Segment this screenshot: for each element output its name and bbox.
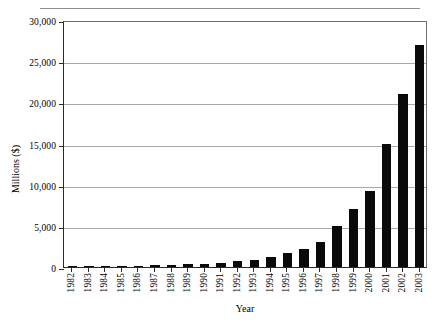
x-axis-tick [204,268,205,272]
bar [183,264,193,267]
x-axis-tick-label: 1982 [66,273,76,292]
bar [415,45,425,267]
x-axis-tick [253,268,254,272]
bar-series [64,22,426,267]
bar [332,226,342,267]
chart-figure: Millions ($) 05,00010,00015,00020,00025,… [0,0,447,322]
bar [266,257,276,267]
figure-top-rule [40,8,420,9]
x-axis-tick [319,268,320,272]
x-axis-tick [137,268,138,272]
bar [101,266,111,267]
x-axis-tick [353,268,354,272]
x-axis-tick-label: 1990 [199,273,209,292]
x-axis-tick-label: 2000 [364,273,374,292]
x-axis-tick [286,268,287,272]
x-axis-tick-label: 1987 [149,273,159,292]
bar [68,266,78,267]
x-axis-tick-label: 1991 [215,273,225,292]
y-axis-tick-label: 0 [51,264,56,274]
y-axis-tick-label: 30,000 [29,17,56,27]
bar [349,209,359,267]
x-axis-tick [369,268,370,272]
x-axis-tick [237,268,238,272]
bar [117,266,127,267]
x-axis-tick-label: 1993 [248,273,258,292]
bar [167,265,177,267]
x-axis-tick [419,268,420,272]
x-axis-tick [187,268,188,272]
x-axis-tick [154,268,155,272]
x-axis-tick [402,268,403,272]
bar [200,264,210,267]
y-axis-tick-label: 15,000 [29,141,56,151]
x-axis-tick-label: 2003 [414,273,424,292]
x-axis-tick-label: 1989 [182,273,192,292]
x-axis-tick-label: 1996 [298,273,308,292]
figure-caption-cropped [40,0,420,6]
bar [216,263,226,267]
x-axis-tick-label: 1988 [166,273,176,292]
bar [150,265,160,267]
x-axis-tick-label: 1985 [116,273,126,292]
bar [84,266,94,267]
y-axis-tick-label: 20,000 [29,99,56,109]
x-axis-tick [270,268,271,272]
y-axis-tick-label: 10,000 [29,182,56,192]
x-axis-tick-label: 1998 [331,273,341,292]
bar [283,253,293,267]
x-axis-tick-label: 1986 [132,273,142,292]
x-axis-tick-label: 1999 [348,273,358,292]
x-axis-tick [104,268,105,272]
bar [299,249,309,267]
x-axis-tick [88,268,89,272]
bar [382,144,392,268]
plot-area: 05,00010,00015,00020,00025,00030,000 [63,21,427,268]
x-axis-tick [386,268,387,272]
x-axis-tick-label: 1997 [314,273,324,292]
x-axis-tick-label: 2002 [397,273,407,292]
x-axis-tick [220,268,221,272]
x-axis-tick [121,268,122,272]
bar [233,261,243,267]
x-axis-tick [71,268,72,272]
x-axis-tick-label: 2001 [381,273,391,292]
y-axis-tick-label: 5,000 [34,223,56,233]
bar [134,266,144,267]
y-axis-tick-label: 25,000 [29,58,56,68]
bar [365,191,375,267]
x-axis-tick-label: 1983 [83,273,93,292]
x-axis-tick [336,268,337,272]
y-axis-title: Millions ($) [10,145,21,193]
x-axis-tick-label: 1994 [265,273,275,292]
x-axis-tick [171,268,172,272]
x-axis-tick-label: 1984 [99,273,109,292]
bar [316,242,326,267]
x-axis-tick-label: 1995 [281,273,291,292]
bar [398,94,408,267]
x-axis-tick [303,268,304,272]
x-axis-tick-label: 1992 [232,273,242,292]
x-axis-title: Year [63,303,427,314]
bar [250,260,260,267]
